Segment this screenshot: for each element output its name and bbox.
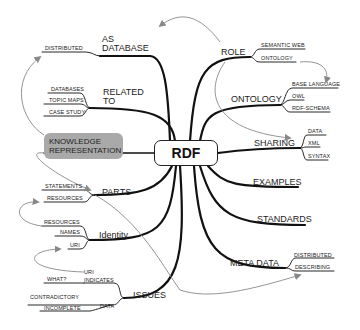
node-topic-maps[interactable]: TOPIC MAPS [49, 98, 84, 104]
node-examples[interactable]: EXAMPLES [253, 178, 302, 187]
node-statements[interactable]: STATEMENTS [45, 184, 82, 190]
node-parts[interactable]: PARTS [102, 188, 131, 197]
node-data-issues[interactable]: DATA [100, 304, 114, 310]
node-distributed-meta[interactable]: DISTRIBUTED [294, 253, 332, 259]
arrow-parts-to-describing [95, 195, 300, 294]
node-standards[interactable]: STANDARDS [257, 215, 312, 224]
arrow-resources-to-resources [19, 202, 42, 226]
kr-line1: KNOWLEDGE [49, 137, 123, 146]
node-syntax[interactable]: SYNTAX [308, 154, 330, 160]
node-data-sharing[interactable]: DATA [308, 129, 322, 135]
node-names[interactable]: NAMES [60, 230, 80, 236]
node-uri-indicates[interactable]: URIINDICATES [84, 270, 114, 283]
arrow-role-to-database [160, 17, 220, 42]
arrow-ontology-to-base [300, 62, 327, 82]
kr-line2: REPRESENTATION [49, 146, 123, 155]
node-semantic-web[interactable]: SEMANTIC WEB [261, 43, 305, 49]
node-role[interactable]: ROLE [221, 48, 246, 57]
arrow-knowledge-to-distributed [21, 57, 44, 135]
branch-ontology [200, 105, 280, 141]
arrow-uri-indicates-to-uri [35, 249, 84, 272]
node-rdf-schema[interactable]: RDF-SCHEMA [292, 106, 330, 112]
node-databases[interactable]: DATABASES [51, 87, 84, 93]
branch-sharing [218, 148, 300, 153]
node-uri[interactable]: URI [70, 243, 80, 249]
central-label: RDF [172, 145, 201, 161]
node-identity[interactable]: Identity [99, 231, 128, 240]
node-xml[interactable]: XML [308, 141, 320, 147]
node-ontology[interactable]: ONTOLOGY [231, 95, 282, 104]
node-ontology-role[interactable]: ONTOLOGY [261, 56, 293, 62]
node-meta-data[interactable]: META DATA [230, 259, 279, 268]
node-distributed[interactable]: DISTRIBUTED [45, 46, 83, 52]
knowledge-representation-node[interactable]: KNOWLEDGE REPRESENTATION [44, 133, 123, 159]
node-related-to[interactable]: RELATEDTO [103, 88, 144, 106]
node-sharing[interactable]: SHARING [254, 139, 295, 148]
node-resources-parts[interactable]: RESOURCES [47, 196, 83, 202]
node-resources-identity[interactable]: RESOURCES [44, 220, 80, 226]
node-issues[interactable]: ISSUES [133, 291, 166, 300]
node-as-database[interactable]: ASDATABASE [102, 35, 149, 53]
node-describing[interactable]: DESCRIBING [295, 265, 330, 271]
node-case-study[interactable]: CASE STUDY [49, 110, 85, 116]
node-contradictory[interactable]: CONTRADICTORY [30, 295, 79, 301]
node-incomplete[interactable]: INCOMPLETE [44, 306, 81, 312]
node-what[interactable]: WHAT? [47, 277, 66, 283]
central-node-rdf[interactable]: RDF [154, 140, 218, 166]
node-owl[interactable]: OWL [292, 94, 305, 100]
node-base-language[interactable]: BASE LANGUAGE [292, 82, 340, 88]
